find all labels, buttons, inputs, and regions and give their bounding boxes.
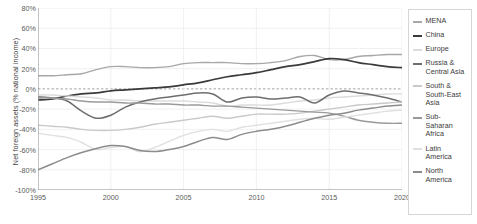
x-axis-tick-label: 2010	[248, 193, 264, 202]
y-axis-tick-label: 40%	[22, 44, 36, 53]
chart-svg	[38, 8, 402, 190]
y-axis-tick-label: 60%	[22, 24, 36, 33]
legend-item-label: China	[426, 31, 445, 40]
legend-color-swatch	[413, 117, 422, 119]
chart-legend: MENAChinaEuropeRussia & Central AsiaSout…	[408, 9, 472, 215]
legend-color-swatch	[413, 171, 422, 173]
legend-color-swatch	[413, 21, 422, 23]
legend-item[interactable]: Sub-Saharan Africa	[413, 113, 467, 139]
chart-figure: Net foreign assets (% national income) 8…	[0, 0, 477, 224]
series-line	[38, 54, 402, 75]
series-line	[38, 105, 402, 170]
legend-item[interactable]: Europe	[413, 45, 467, 54]
plot-area	[38, 8, 402, 190]
legend-item[interactable]: South & South-East Asia	[413, 82, 467, 108]
legend-item[interactable]: Latin America	[413, 145, 467, 162]
series-line	[38, 98, 402, 123]
y-axis-tick-label: -40%	[19, 125, 36, 134]
y-axis-tick-label: 20%	[22, 64, 36, 73]
legend-color-swatch	[413, 85, 422, 87]
legend-item[interactable]: China	[413, 31, 467, 40]
legend-item-label: Russia & Central Asia	[426, 59, 465, 76]
x-axis-tick-label: 2005	[176, 193, 192, 202]
y-axis-tick-label: -20%	[19, 105, 36, 114]
x-axis-tick-label: 2015	[321, 193, 337, 202]
legend-item[interactable]: MENA	[413, 17, 467, 26]
y-axis-title: Net foreign assets (% national income)	[11, 2, 20, 202]
x-axis-tick-label: 1995	[30, 193, 46, 202]
legend-item[interactable]: North America	[413, 167, 467, 184]
legend-item[interactable]: Russia & Central Asia	[413, 59, 467, 76]
legend-color-swatch	[413, 63, 422, 65]
series-line	[38, 58, 402, 100]
legend-item-label: Sub-Saharan Africa	[426, 113, 468, 139]
x-axis-tick-label: 2000	[103, 193, 119, 202]
legend-item-label: MENA	[426, 17, 447, 26]
legend-item-label: South & South-East Asia	[426, 82, 462, 108]
series-line	[38, 94, 402, 106]
y-axis-tick-label: -60%	[19, 145, 36, 154]
y-axis-tick-label: 80%	[22, 4, 36, 13]
legend-item-label: North America	[426, 167, 452, 184]
legend-color-swatch	[413, 35, 422, 37]
legend-color-swatch	[413, 148, 422, 150]
y-axis-tick-label: -80%	[19, 165, 36, 174]
legend-color-swatch	[413, 49, 422, 51]
legend-item-label: Latin America	[426, 145, 452, 162]
y-axis-tick-label: 0%	[26, 84, 36, 93]
legend-item-label: Europe	[426, 45, 449, 54]
